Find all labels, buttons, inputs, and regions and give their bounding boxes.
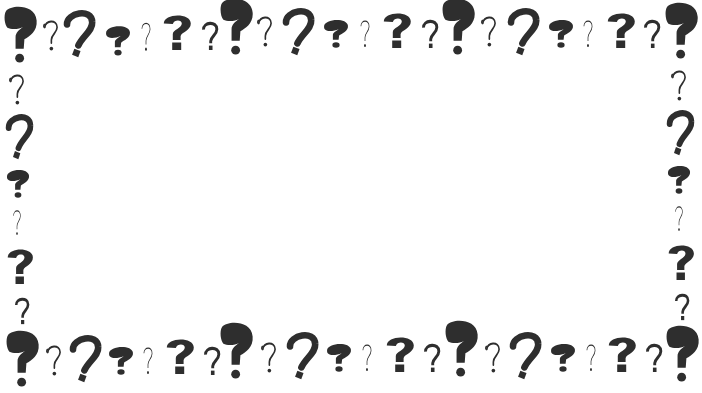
question-mark-icon — [585, 342, 597, 372]
question-mark-icon — [667, 110, 693, 156]
question-mark-border-frame — [0, 0, 702, 393]
question-mark-icon — [220, 322, 254, 380]
question-mark-icon — [421, 18, 439, 50]
question-mark-icon — [64, 10, 94, 58]
question-mark-icon — [6, 114, 32, 160]
question-mark-icon — [108, 343, 134, 377]
question-mark-icon — [667, 242, 695, 282]
question-mark-icon — [643, 18, 661, 50]
question-mark-icon — [665, 2, 699, 60]
question-mark-icon — [674, 204, 684, 232]
question-mark-icon — [6, 246, 34, 286]
question-mark-icon — [6, 330, 40, 388]
question-mark-icon — [480, 14, 498, 48]
question-mark-icon — [8, 72, 26, 106]
question-mark-icon — [165, 336, 195, 376]
question-mark-icon — [385, 334, 415, 374]
question-mark-icon — [582, 18, 594, 48]
question-mark-icon — [140, 20, 152, 52]
question-mark-icon — [607, 334, 637, 374]
question-mark-icon — [326, 340, 352, 374]
question-mark-icon — [666, 325, 700, 383]
question-mark-icon — [256, 14, 274, 48]
question-mark-icon — [382, 10, 412, 50]
question-mark-icon — [606, 10, 636, 50]
question-mark-icon — [203, 345, 221, 377]
question-mark-icon — [323, 16, 349, 50]
question-mark-icon — [12, 208, 22, 236]
question-mark-icon — [359, 18, 371, 48]
question-mark-icon — [142, 345, 154, 375]
question-mark-icon — [550, 340, 576, 374]
question-mark-icon — [361, 342, 373, 372]
question-mark-icon — [45, 343, 63, 377]
question-mark-icon — [105, 22, 131, 58]
question-mark-icon — [484, 340, 502, 374]
question-mark-icon — [42, 18, 60, 52]
question-mark-icon — [423, 342, 441, 374]
question-mark-icon — [548, 16, 574, 50]
question-mark-icon — [445, 320, 479, 378]
question-mark-icon — [645, 342, 663, 374]
question-mark-icon — [70, 335, 100, 383]
empty-center-area — [40, 68, 662, 326]
question-mark-icon — [510, 332, 540, 380]
question-mark-icon — [287, 332, 317, 380]
question-mark-icon — [162, 12, 192, 52]
question-mark-icon — [667, 162, 691, 196]
question-mark-icon — [6, 166, 30, 200]
question-mark-icon — [4, 6, 38, 64]
question-mark-icon — [508, 8, 538, 56]
question-mark-icon — [14, 296, 30, 326]
question-mark-icon — [220, 0, 254, 56]
question-mark-icon — [670, 68, 688, 102]
question-mark-icon — [260, 340, 278, 374]
question-mark-icon — [674, 292, 690, 322]
question-mark-icon — [283, 8, 313, 56]
question-mark-icon — [201, 20, 219, 52]
question-mark-icon — [442, 0, 476, 56]
